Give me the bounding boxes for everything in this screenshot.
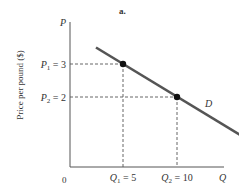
x-axis-label: Q <box>219 172 227 183</box>
origin-label: 0 <box>62 175 67 185</box>
y-tick-label: P1 = 3 <box>40 59 66 72</box>
y-axis-title: Price per pound ($) <box>15 50 25 120</box>
y-axis-label: P <box>59 17 66 28</box>
data-point <box>120 61 126 67</box>
x-tick-label: Q1 = 5 <box>110 172 136 185</box>
data-point <box>174 94 180 100</box>
demand-curve-label: D <box>204 98 213 109</box>
demand-curve <box>96 48 239 135</box>
demand-chart: a. Price per pound ($) P Q 0 P1 = 3P2 = … <box>0 0 239 193</box>
x-tick-label: Q2 = 10 <box>161 172 192 185</box>
chart-title: a. <box>119 6 126 16</box>
y-tick-label: P2 = 2 <box>40 92 66 105</box>
